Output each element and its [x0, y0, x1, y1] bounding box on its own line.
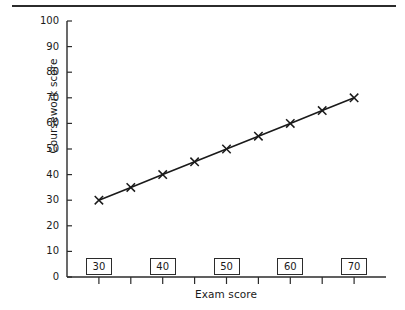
x-axis-boxed-label: 70	[341, 258, 367, 275]
data-point-marker	[350, 94, 358, 102]
x-axis-boxed-label: 60	[277, 258, 303, 275]
y-axis-ticks	[67, 21, 72, 277]
data-point-marker	[190, 158, 198, 166]
x-axis-boxed-label: 50	[214, 258, 240, 275]
data-markers	[95, 94, 359, 205]
y-axis-tick-label: 10	[31, 246, 59, 256]
data-point-marker	[286, 119, 294, 127]
data-point-marker	[318, 106, 326, 114]
data-point-marker	[254, 132, 262, 140]
data-point-marker	[159, 170, 167, 178]
data-point-marker	[95, 196, 103, 204]
x-axis-boxed-label: 30	[86, 258, 112, 275]
data-point-marker	[127, 183, 135, 191]
y-axis-title: Coursework score	[47, 11, 59, 201]
data-point-marker	[222, 145, 230, 153]
x-axis-ticks	[99, 277, 354, 284]
x-axis-boxed-label: 40	[150, 258, 176, 275]
y-axis-tick-label: 20	[31, 221, 59, 231]
y-axis-tick-label: 0	[31, 272, 59, 282]
x-axis-title: Exam score	[67, 288, 385, 300]
chart-figure: 0102030405060708090100 3040506070 Course…	[0, 0, 405, 310]
